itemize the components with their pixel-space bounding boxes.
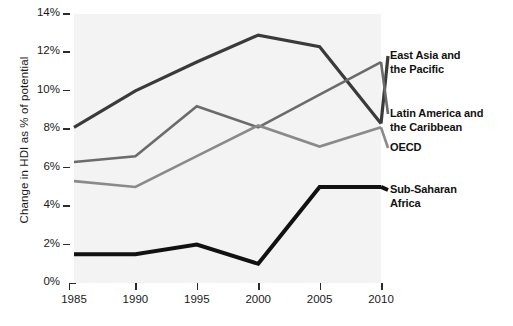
y-tick-mark [63,51,70,53]
legend-label-line1: East Asia and [390,49,460,63]
legend-label-line1: Sub-Saharan [390,183,457,197]
plot-background [74,14,381,283]
x-tick-mark [135,283,137,290]
x-tick-mark [381,283,383,290]
y-tick-label: 2% [43,237,60,249]
x-tick-label: 2010 [368,293,394,305]
y-tick-label: 6% [43,160,60,172]
x-tick-mark [320,283,322,290]
y-tick-label: 4% [43,198,60,210]
legend-item-east-asia-and-the-pacific: East Asia and the Pacific [390,49,460,76]
hdi-change-line-chart: Change in HDI as % of potential 0% 2% 4%… [0,0,513,326]
y-tick-label: 14% [37,6,60,18]
y-tick-mark [63,128,70,130]
legend-label-line1: OECD [390,141,421,155]
x-tick-label: 1990 [123,293,149,305]
series-leader-line [381,62,388,114]
y-tick-label: 8% [43,121,60,133]
legend-label-line1: Latin America and [390,107,483,121]
series-leader-line [381,187,388,190]
legend-item-oecd: OECD [390,141,421,155]
series-leader-line [381,127,388,148]
legend-item-sub-saharan-africa: Sub-Saharan Africa [390,183,457,210]
legend-label-line2: Africa [390,197,457,211]
y-tick-mark [63,90,70,92]
x-tick-label: 2005 [307,293,333,305]
x-tick-mark [197,283,199,290]
x-tick-label: 2000 [245,293,271,305]
y-tick-mark [63,13,70,15]
y-tick-label: 10% [37,83,60,95]
y-axis: 0% 2% 4% 6% 8% 10% 12% 14% [0,0,70,326]
x-tick-label: 1995 [184,293,210,305]
legend-item-latin-america-and-the-caribbean: Latin America and the Caribbean [390,107,483,134]
y-tick-mark [63,167,70,169]
y-tick-mark [63,205,70,207]
x-tick-mark [258,283,260,290]
y-tick-label: 12% [37,44,60,56]
series-leader-line [381,56,388,124]
y-tick-label: 0% [43,275,60,287]
axis-origin-corner [69,283,76,290]
y-tick-mark [63,244,70,246]
legend-label-line2: the Pacific [390,63,460,77]
x-tick-label: 1985 [61,293,87,305]
legend-label-line2: the Caribbean [390,121,483,135]
